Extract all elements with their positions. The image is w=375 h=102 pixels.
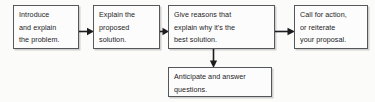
flowchart-node-explain-solution: Explain the proposed solution. xyxy=(93,5,160,49)
arrow-right-icon-1 xyxy=(79,22,94,31)
flowchart-node-label: Anticipate and answer questions. xyxy=(174,71,267,96)
flowchart-node-give-reasons: Give reasons that explain why it's the b… xyxy=(168,5,275,49)
flowchart-node-introduce-problem: Introduce and explain the problem. xyxy=(13,5,79,49)
arrow-right-icon-3 xyxy=(275,22,295,31)
flowchart-node-label: Give reasons that explain why it's the b… xyxy=(174,9,270,47)
flowchart-node-label: Introduce and explain the problem. xyxy=(19,9,74,47)
flowchart-diagram: Introduce and explain the problem. Expla… xyxy=(0,0,375,102)
flowchart-node-label: Call for action, or reiterate your propo… xyxy=(300,9,363,47)
arrow-down-icon-1 xyxy=(209,49,218,68)
flowchart-node-label: Explain the proposed solution. xyxy=(99,9,155,47)
flowchart-node-call-for-action: Call for action, or reiterate your propo… xyxy=(294,5,368,49)
flowchart-node-anticipate-questions: Anticipate and answer questions. xyxy=(168,67,272,97)
